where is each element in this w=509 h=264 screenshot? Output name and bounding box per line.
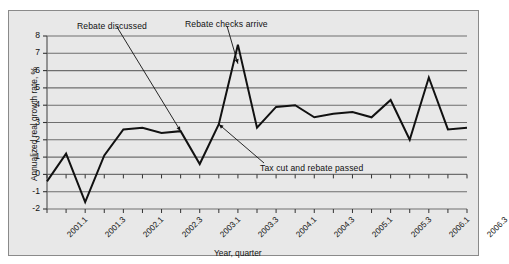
annotation-rebate-checks-arrive: Rebate checks arrive [185,19,268,29]
y-tick-label: -2 [26,203,40,213]
y-tick-label: 8 [26,30,40,40]
annotation-tax-cut-and-rebate-passed: Tax cut and rebate passed [260,163,363,173]
y-tick-label: 3 [26,117,40,127]
x-tick-label: 2006.3 [485,215,509,239]
y-tick-label: 6 [26,65,40,75]
y-tick-label: 2 [26,134,40,144]
chart-figure: Annualized real growth rate, % Year, qua… [8,10,479,256]
y-tick-label: 4 [26,99,40,109]
annotation-rebate-discussed: Rebate discussed [77,21,147,31]
y-tick-label: 0 [26,168,40,178]
y-tick-label: -1 [26,186,40,196]
y-tick-label: 1 [26,151,40,161]
x-axis-title: Year, quarter [214,248,262,258]
y-tick-label: 7 [26,47,40,57]
y-tick-label: 5 [26,82,40,92]
